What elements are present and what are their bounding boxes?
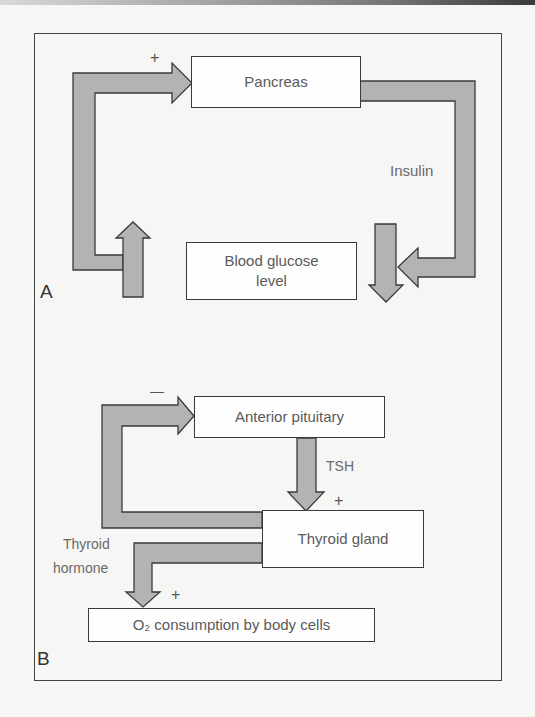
o2-consumption-label: O₂ consumption by body cells [133,615,331,635]
anterior-pituitary-label: Anterior pituitary [235,407,344,427]
thyroid-hormone-label-line1: Thyroid [63,536,110,553]
thyroid-hormone-label-line2: hormone [53,560,108,577]
pituitary-negative-sign: — [150,383,164,399]
down-arrow-glucose [369,224,403,302]
tsh-label: TSH [326,458,354,475]
pancreas-positive-sign: + [150,50,159,66]
pancreas-box: Pancreas [191,56,361,108]
insulin-label: Insulin [390,162,433,179]
thyroid-hormone-arrow [126,543,262,607]
anterior-pituitary-box: Anterior pituitary [194,396,385,438]
o2-consumption-box: O₂ consumption by body cells [88,608,375,642]
panel-letter-b: B [37,648,50,670]
tsh-positive-sign: + [334,493,343,509]
thyroid-gland-box: Thyroid gland [262,510,424,568]
blood-glucose-box: Blood glucose level [186,242,357,300]
pancreas-label: Pancreas [244,72,307,92]
blood-glucose-label: Blood glucose level [212,251,332,291]
thyroid-gland-label: Thyroid gland [298,529,389,549]
panel-letter-a: A [40,281,53,303]
o2-positive-sign: + [171,587,180,603]
tsh-arrow [288,438,324,511]
